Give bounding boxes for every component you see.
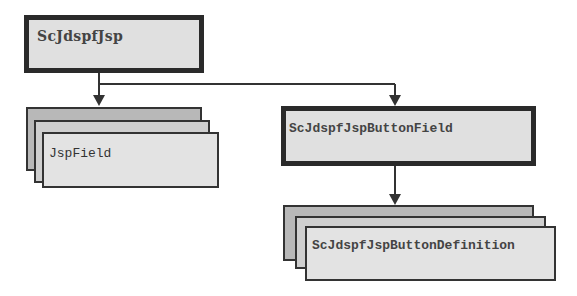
node-field-label: JspField bbox=[49, 146, 111, 161]
node-button-field-label: ScJdspfJspButtonField bbox=[289, 121, 453, 136]
node-button-field: ScJdspfJspButtonField bbox=[281, 106, 536, 166]
node-field: JspField bbox=[42, 132, 219, 188]
node-button-definition-label: ScJdspfJspButtonDefinition bbox=[312, 238, 515, 253]
node-root-label: ScJdspfJsp bbox=[37, 28, 123, 44]
node-root: ScJdspfJsp bbox=[24, 15, 204, 73]
arrow-down-icon bbox=[93, 95, 105, 106]
arrow-down-icon bbox=[389, 95, 401, 106]
node-button-definition: ScJdspfJspButtonDefinition bbox=[305, 226, 556, 281]
arrow-down-icon bbox=[389, 194, 401, 205]
